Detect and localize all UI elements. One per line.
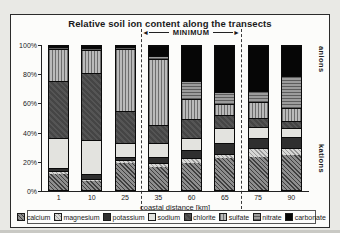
bar-slot-75km	[242, 45, 275, 191]
segment-sulfate	[116, 49, 135, 111]
stacked-bar-10km	[81, 45, 102, 191]
segment-chlorite	[182, 119, 201, 138]
x-tick-label: 65	[208, 194, 241, 201]
legend-swatch-sulfate	[219, 213, 227, 221]
legend-label: potassium	[113, 214, 145, 221]
x-tick-label: 1	[42, 194, 75, 201]
plot-area	[42, 45, 308, 191]
y-tick-mark	[38, 103, 41, 104]
segment-potassium	[215, 143, 234, 155]
stacked-bar-25km	[115, 45, 136, 191]
segment-magnesium	[282, 148, 301, 155]
segment-nitrate	[282, 76, 301, 108]
segment-sodium	[182, 138, 201, 150]
legend-item-calcium: calcium	[17, 213, 50, 221]
segment-sulfate	[215, 104, 234, 116]
scan-artifact-edge	[0, 230, 340, 233]
segment-potassium	[182, 150, 201, 159]
legend-item-potassium: potassium	[103, 213, 144, 221]
segment-carbonate	[249, 46, 268, 91]
segment-carbonate	[215, 46, 234, 92]
legend-swatch-magnesium	[54, 213, 62, 221]
segment-calcium	[116, 163, 135, 190]
segment-chlorite	[249, 118, 268, 127]
segment-carbonate	[182, 46, 201, 81]
legend-label: nitrate	[262, 214, 281, 221]
legend-item-sulfate: sulfate	[219, 213, 249, 221]
chart-legend: calciummagnesiumpotassiumsodiumchlorites…	[27, 210, 316, 224]
x-tick-label: 90	[275, 194, 308, 201]
x-axis-line	[41, 191, 309, 192]
y-tick-mark	[38, 162, 41, 163]
segment-chlorite	[82, 73, 101, 139]
y-tick-mark	[38, 133, 41, 134]
segment-sulfate	[149, 59, 168, 125]
x-tick-label: 75	[242, 194, 275, 201]
bar-slot-60km	[175, 45, 208, 191]
segment-sodium	[282, 128, 301, 137]
stacked-bar-75km	[248, 45, 269, 191]
segment-calcium	[215, 158, 234, 190]
legend-label: carbonate	[295, 214, 326, 221]
segment-calcium	[49, 174, 68, 190]
stacked-bar-35km	[148, 45, 169, 191]
legend-swatch-chlorite	[184, 213, 192, 221]
y-tick-mark	[38, 191, 41, 192]
segment-sodium	[215, 128, 234, 142]
segment-chlorite	[116, 111, 135, 143]
segment-chlorite	[282, 121, 301, 128]
stacked-bar-90km	[281, 45, 302, 191]
stacked-bar-1km	[48, 45, 69, 191]
x-tick-label: 35	[142, 194, 175, 201]
segment-calcium	[82, 181, 101, 190]
legend-item-nitrate: nitrate	[253, 213, 282, 221]
segment-sulfate	[182, 99, 201, 119]
segment-sulfate	[249, 102, 268, 118]
bar-slot-1km	[42, 45, 75, 191]
segment-magnesium	[249, 148, 268, 157]
segment-sulfate	[82, 50, 101, 73]
anions-label: anions	[317, 46, 326, 73]
segment-chlorite	[149, 125, 168, 142]
segment-potassium	[249, 138, 268, 148]
legend-label: calcium	[27, 214, 51, 221]
legend-label: sodium	[157, 214, 180, 221]
segment-calcium	[149, 167, 168, 190]
annotation-line-right	[213, 32, 233, 33]
annotation-line-left	[149, 32, 169, 33]
segment-sodium	[82, 140, 101, 175]
segment-carbonate	[149, 46, 168, 56]
minimum-annotation: ◄ MINIMUM ►	[142, 27, 240, 37]
bar-slot-65km	[208, 45, 241, 191]
segment-carbonate	[282, 46, 301, 76]
segment-potassium	[282, 137, 301, 149]
segment-calcium	[182, 163, 201, 190]
segment-sodium	[116, 143, 135, 157]
legend-label: magnesium	[63, 214, 99, 221]
bar-slot-10km	[75, 45, 108, 191]
segment-chlorite	[49, 81, 68, 139]
segment-chlorite	[215, 115, 234, 128]
bar-slot-90km	[275, 45, 308, 191]
arrow-left-icon: ◄	[142, 29, 149, 36]
segment-sulfate	[49, 49, 68, 81]
legend-label: sulfate	[229, 214, 250, 221]
legend-swatch-sodium	[148, 213, 156, 221]
legend-label: chlorite	[193, 214, 216, 221]
y-tick-mark	[38, 45, 41, 46]
legend-swatch-calcium	[17, 213, 25, 221]
x-axis-tick-labels: 110253560657590	[42, 194, 308, 201]
legend-item-chlorite: chlorite	[184, 213, 216, 221]
stacked-bar-60km	[181, 45, 202, 191]
segment-nitrate	[215, 92, 234, 104]
segment-sodium	[249, 127, 268, 139]
figure-frame: Relative soil ion content along the tran…	[10, 14, 330, 228]
y-tick-label: 60%	[11, 100, 37, 107]
segment-calcium	[282, 155, 301, 190]
legend-item-magnesium: magnesium	[54, 213, 100, 221]
segment-nitrate	[249, 91, 268, 103]
y-tick-mark	[38, 74, 41, 75]
segment-sulfate	[282, 108, 301, 121]
y-tick-label: 20%	[11, 158, 37, 165]
y-tick-label: 80%	[11, 71, 37, 78]
